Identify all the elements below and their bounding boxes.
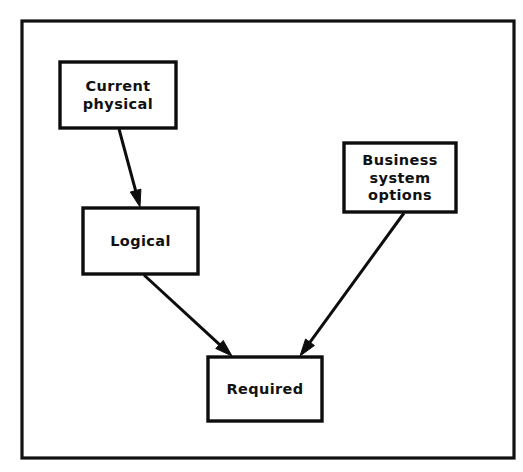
edge-line xyxy=(307,213,404,346)
edge-line xyxy=(144,275,223,347)
diagram-svg: Currentphysical Logical Businesssystemop… xyxy=(0,0,523,472)
edge-line xyxy=(119,129,137,195)
edge-current-physical-to-logical xyxy=(119,129,141,207)
edge-logical-to-required xyxy=(144,275,232,356)
nodes-layer: Currentphysical Logical Businesssystemop… xyxy=(60,62,456,421)
node-required: Required xyxy=(208,357,322,421)
node-label: Businesssystemoptions xyxy=(362,152,438,203)
node-current-physical: Currentphysical xyxy=(60,62,176,128)
diagram-canvas: Currentphysical Logical Businesssystemop… xyxy=(0,0,523,472)
edge-business-system-options-to-required xyxy=(300,213,404,356)
node-label: Currentphysical xyxy=(83,78,153,112)
arrowhead-icon xyxy=(130,189,141,207)
node-logical: Logical xyxy=(83,208,198,274)
node-business-system-options: Businesssystemoptions xyxy=(344,143,456,212)
node-label: Required xyxy=(226,381,303,397)
node-label: Logical xyxy=(110,233,171,249)
